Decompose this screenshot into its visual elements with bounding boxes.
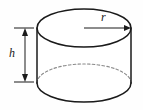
height-label: h (9, 47, 15, 59)
cylinder-figure: h r (0, 0, 143, 110)
cylinder-drawing (0, 0, 143, 110)
height-dimension (14, 28, 34, 82)
height-arrow-head-up-icon (22, 28, 28, 36)
height-arrow-head-down-icon (22, 74, 28, 82)
radius-label: r (101, 11, 106, 23)
